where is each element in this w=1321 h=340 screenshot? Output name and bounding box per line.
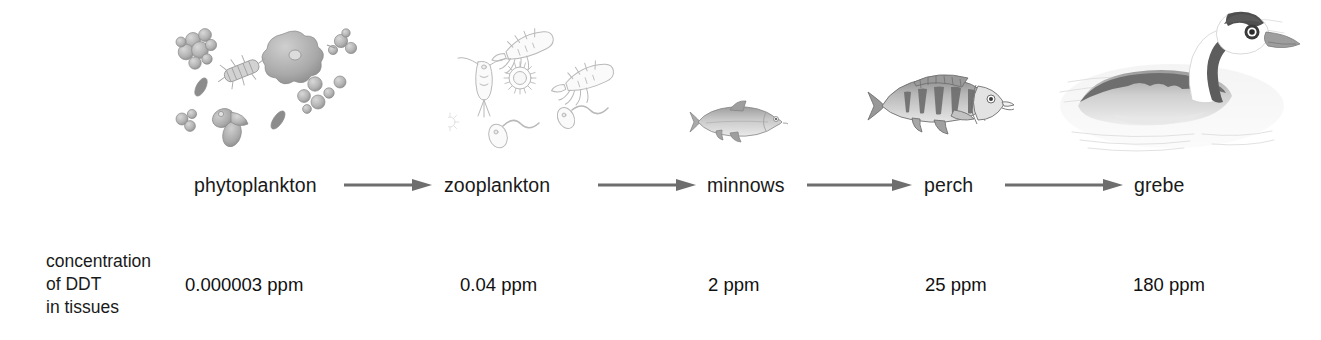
chain-label-perch: perch	[924, 168, 973, 202]
concentration-caption: concentration of DDT in tissues	[46, 250, 151, 319]
perch-fish-illustration	[858, 58, 1018, 150]
chain-label-minnows: minnows	[707, 168, 785, 202]
concentration-caption-line-2: of DDT	[46, 273, 151, 296]
concentration-row: concentration of DDT in tissues 0.000003…	[0, 250, 1321, 328]
chain-label-grebe: grebe	[1134, 168, 1184, 202]
concentration-caption-line-1: concentration	[46, 250, 151, 273]
chain-label-zooplankton: zooplankton	[444, 168, 550, 202]
phytoplankton-illustration	[155, 14, 370, 154]
arrow-phytoplankton-to-zooplankton	[344, 177, 432, 193]
concentration-value-zooplankton: 0.04 ppm	[460, 273, 537, 296]
concentration-value-minnows: 2 ppm	[708, 273, 759, 296]
concentration-value-grebe: 180 ppm	[1133, 273, 1205, 296]
food-chain-label-row: phytoplankton zooplankton minnows perch	[0, 168, 1321, 202]
arrow-minnows-to-perch	[807, 177, 912, 193]
chain-label-phytoplankton: phytoplankton	[194, 168, 317, 202]
minnow-fish-illustration	[682, 96, 800, 148]
concentration-value-phytoplankton: 0.000003 ppm	[185, 273, 303, 296]
concentration-caption-line-3: in tissues	[46, 296, 151, 319]
arrow-perch-to-grebe	[1005, 177, 1123, 193]
concentration-value-perch: 25 ppm	[925, 273, 987, 296]
grebe-bird-illustration	[1052, 2, 1314, 158]
zooplankton-illustration	[448, 22, 638, 154]
biomagnification-diagram: phytoplankton zooplankton minnows perch	[0, 0, 1321, 340]
arrow-zooplankton-to-minnows	[598, 177, 696, 193]
